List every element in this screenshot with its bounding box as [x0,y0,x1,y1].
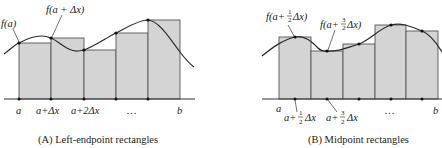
axis-midpoint-dot [358,98,361,101]
tick-label-b: b [433,105,438,116]
svg-text:Δx: Δx [304,112,316,123]
tick-label-a: a [276,103,281,114]
rectangle-5 [406,31,438,99]
label-f-a-plus-dx: f(a + Δx) [46,4,85,16]
tick-label-b: b [177,105,182,116]
rectangle-4 [375,25,406,99]
tick-label-a-plus-three-halves-dx: a+ 3 2 Δx [326,109,358,126]
axis-tick-dot [115,98,118,101]
svg-text:3: 3 [341,109,345,117]
svg-text:f(a+: f(a+ [320,19,339,31]
tick-label-a-plus-dx: a+Δx [36,105,59,116]
leader-line [295,100,297,112]
svg-text:1: 1 [288,8,292,16]
caption-left-endpoint: (A) Left-endpoint rectangles [38,134,158,146]
svg-text:3: 3 [342,16,346,24]
riemann-sum-figure: f(a) f(a + Δx) a a+Δx a+2Δx … b (A) Left… [0,0,442,148]
svg-text:2: 2 [341,118,345,126]
midpoint-sample [420,29,423,32]
rectangle-3 [84,50,116,99]
rectangle-5 [148,20,180,99]
label-f-a-plus-half-dx: f(a+ 1 2 Δx) [266,8,308,24]
svg-text:2: 2 [288,16,292,24]
midpoint-sample [389,23,392,26]
sample-point [82,48,85,51]
caption-midpoint: (B) Midpoint rectangles [308,134,409,146]
leader-line [288,25,294,36]
axis-midpoint-dot [390,98,393,101]
leader-line [52,15,62,37]
sample-point [146,18,149,21]
svg-text:Δx): Δx) [346,19,362,31]
svg-text:a+: a+ [284,112,296,123]
axis-tick-dot [18,98,21,101]
midpoint-sample [357,42,360,45]
axis-tick-dot [147,98,150,101]
leader-line [13,29,19,42]
tick-label-a-plus-half-dx: a+ 1 2 Δx [284,109,316,126]
panel-midpoint: f(a+ 1 2 Δx) f(a+ 3 2 Δx) a b … a+ 1 2 Δ… [262,8,442,146]
axis-tick-dot [50,98,53,101]
rectangle-3 [343,44,375,99]
svg-text:1: 1 [299,109,303,117]
svg-text:2: 2 [342,24,346,32]
leader-line [328,100,337,112]
rectangle-1 [279,37,311,99]
panel-left-endpoint: f(a) f(a + Δx) a a+Δx a+2Δx … b (A) Left… [1,4,195,146]
rectangle-1 [19,43,51,99]
rectangle-4 [116,33,148,99]
rectangle-2 [51,38,84,99]
axis-tick-dot [83,98,86,101]
label-f-a-plus-three-halves-dx: f(a+ 3 2 Δx) [320,16,362,32]
tick-label-a-plus-2dx: a+2Δx [71,105,100,116]
tick-label-ellipsis: … [127,105,136,116]
svg-text:2: 2 [299,118,303,126]
sample-point [114,31,117,34]
tick-label-a: a [16,105,21,116]
axis-midpoint-dot [421,98,424,101]
tick-label-ellipsis: … [385,105,394,116]
svg-text:Δx: Δx [346,112,358,123]
rectangle-2 [311,51,343,99]
label-f-a: f(a) [1,18,17,30]
svg-text:Δx): Δx) [292,11,308,23]
svg-text:a+: a+ [326,112,338,123]
leader-line [328,30,335,50]
svg-text:f(a+: f(a+ [266,11,285,23]
